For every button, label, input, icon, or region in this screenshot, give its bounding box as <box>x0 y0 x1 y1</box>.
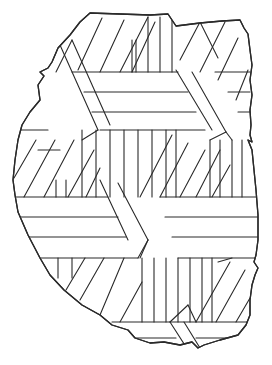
sherd-drawing <box>0 0 272 365</box>
sherd-svg <box>0 0 272 365</box>
